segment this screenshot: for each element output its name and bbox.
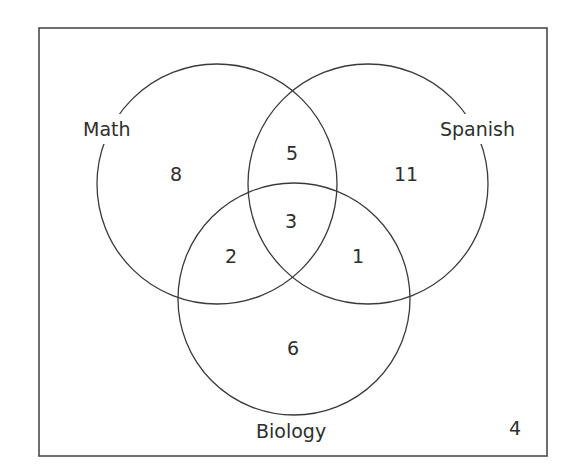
math-label: Math <box>80 114 134 144</box>
universal-set-box <box>39 28 547 456</box>
count-math-only: 8 <box>170 163 182 185</box>
math-circle <box>97 64 337 304</box>
biology-label: Biology <box>250 416 332 446</box>
count-math-biology: 2 <box>225 245 237 267</box>
count-all-three: 3 <box>285 210 297 232</box>
count-spanish-biology: 1 <box>352 245 364 267</box>
count-none: 4 <box>509 417 521 439</box>
count-spanish-only: 11 <box>394 163 418 185</box>
spanish-label: Spanish <box>437 114 518 144</box>
count-biology-only: 6 <box>287 337 299 359</box>
venn-diagram <box>0 0 572 472</box>
count-math-spanish: 5 <box>286 142 298 164</box>
